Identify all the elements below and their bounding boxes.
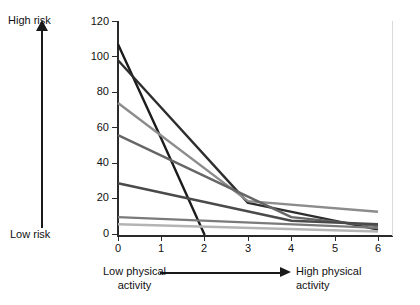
series-line-2 — [118, 60, 378, 229]
chart-series-layer — [0, 0, 420, 305]
chart-root: High risk Low risk 120 100 80 60 40 20 0… — [0, 0, 420, 305]
